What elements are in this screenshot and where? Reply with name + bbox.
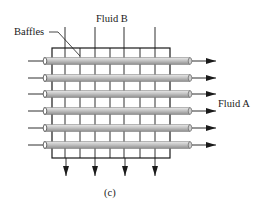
tube <box>28 58 216 65</box>
tube <box>28 75 216 82</box>
tube <box>28 91 216 98</box>
fluid-b-label: Fluid B <box>96 13 128 24</box>
tube <box>28 108 216 115</box>
fluid-b-inlet-lines <box>65 27 155 48</box>
tube-bundle <box>28 58 216 149</box>
figure-caption: (c) <box>104 187 116 199</box>
tube <box>28 125 216 132</box>
baffles-leader-line <box>49 32 80 56</box>
heat-exchanger-diagram: Fluid B Baffles Fluid A (c) <box>0 0 258 205</box>
fluid-b-outlet-arrows <box>66 158 155 176</box>
baffles-label: Baffles <box>14 26 44 37</box>
fluid-a-label: Fluid A <box>218 98 250 109</box>
tube <box>28 142 216 149</box>
